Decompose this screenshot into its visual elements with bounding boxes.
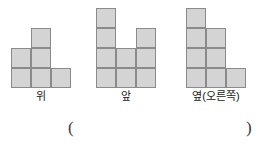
answer-blank-input[interactable] [80,118,244,138]
unit-square [31,28,51,48]
unit-square [51,68,71,88]
unit-square [186,48,206,68]
view-top-group: 위 [0,28,82,88]
view-side-grid [186,8,246,88]
unit-square [116,68,136,88]
unit-square [96,48,116,68]
unit-square [31,68,51,88]
unit-square [96,68,116,88]
worksheet-figure: 위 앞 옆(오른쪽) ( ) [0,0,264,144]
view-top-grid [11,28,71,88]
answer-close-paren: ) [246,118,252,138]
unit-square [186,68,206,88]
unit-square [31,48,51,68]
unit-square [206,48,226,68]
unit-square [96,8,116,28]
unit-square [11,68,31,88]
answer-row: ( ) [0,116,264,142]
unit-square [96,28,116,48]
view-front-group: 앞 [85,8,167,88]
unit-square [186,28,206,48]
view-front-label: 앞 [85,90,167,103]
unit-square [136,68,156,88]
view-side-group: 옆(오른쪽) [170,8,262,88]
answer-open-paren: ( [68,118,74,138]
view-top-label: 위 [0,90,82,103]
unit-square [136,48,156,68]
unit-square [206,28,226,48]
unit-square [186,8,206,28]
unit-square [116,48,136,68]
view-side-label: 옆(오른쪽) [170,90,262,103]
unit-square [226,68,246,88]
view-front-grid [96,8,156,88]
unit-square [11,48,31,68]
unit-square [206,68,226,88]
unit-square [136,28,156,48]
